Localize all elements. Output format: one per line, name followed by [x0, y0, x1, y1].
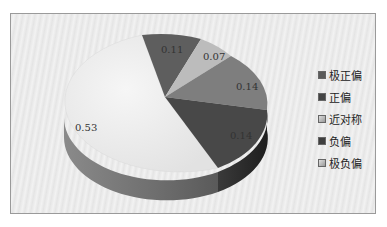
data-label-0-11: 0.11 — [161, 44, 183, 55]
legend-label: 负偏 — [329, 133, 351, 149]
data-label-0-53: 0.53 — [75, 122, 97, 133]
legend-item-jin-dui-cheng: 近对称 — [318, 108, 362, 130]
legend-swatch-icon — [318, 71, 326, 79]
legend-item-ji-zheng-pian: 极正偏 — [318, 64, 362, 86]
legend-label: 极负偏 — [329, 155, 362, 171]
legend-swatch-icon — [318, 159, 326, 167]
legend-label: 正偏 — [329, 89, 351, 105]
chart-legend: 极正偏 正偏 近对称 负偏 极负偏 — [318, 64, 362, 174]
legend-item-ji-fu-pian: 极负偏 — [318, 152, 362, 174]
legend-item-fu-pian: 负偏 — [318, 130, 362, 152]
data-label-0-07: 0.07 — [203, 51, 225, 62]
legend-swatch-icon — [318, 93, 326, 101]
legend-swatch-icon — [318, 137, 326, 145]
legend-item-zheng-pian: 正偏 — [318, 86, 362, 108]
legend-swatch-icon — [318, 115, 326, 123]
legend-label: 近对称 — [329, 111, 362, 127]
data-label-0-14-b: 0.14 — [230, 130, 252, 141]
legend-label: 极正偏 — [329, 67, 362, 83]
data-label-0-14-a: 0.14 — [236, 81, 258, 92]
